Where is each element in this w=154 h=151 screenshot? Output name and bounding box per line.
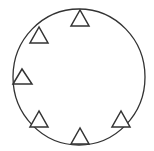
triangle-left-icon (13, 69, 32, 84)
circle-triangles-diagram (0, 0, 154, 151)
triangle-top-icon (71, 10, 89, 26)
triangle-lower-left-icon (30, 111, 48, 127)
triangle-lower-right-icon (112, 111, 130, 127)
triangle-bottom-icon (71, 128, 89, 144)
